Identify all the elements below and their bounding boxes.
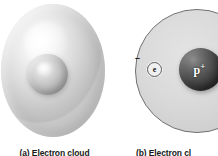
proton-nucleus-icon: p+ — [179, 48, 218, 91]
electron-icon: e — [147, 62, 162, 77]
panel-planetary-model: p+ – e (b) Electron cl — [109, 0, 218, 156]
proton-label: p+ — [194, 64, 206, 76]
electron-charge-sign: – — [135, 54, 140, 63]
panel-a-caption: (a) Electron cloud — [0, 148, 109, 156]
atomic-model-figure: (a) Electron cloud p+ – e (b) Electron c… — [0, 0, 218, 156]
proton-charge: + — [200, 61, 205, 71]
nucleus-sphere-icon — [27, 54, 68, 95]
nucleus-highlight — [37, 62, 53, 77]
electron-cloud-sphere-icon — [1, 4, 105, 137]
electron-label: e — [153, 66, 157, 74]
panel-electron-cloud: (a) Electron cloud — [0, 0, 109, 156]
panel-b-caption: (b) Electron cl — [109, 148, 218, 156]
